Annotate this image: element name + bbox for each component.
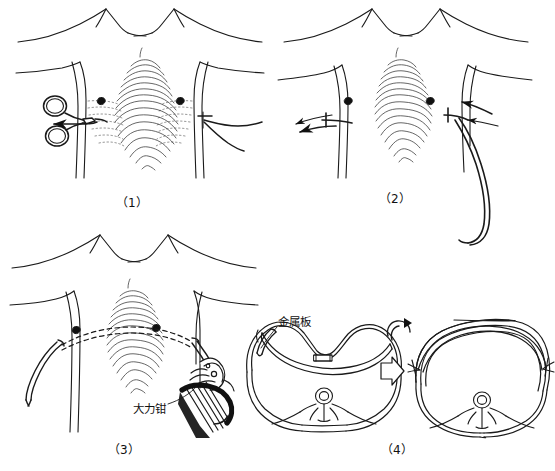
shoulder-neck-contours-p2: [284, 9, 528, 42]
rotation-arrow-p4: [387, 318, 412, 340]
panel-1-caption: （1）: [116, 193, 148, 210]
panel-3-caption: （3）: [108, 440, 140, 457]
torso-outline-p1: [16, 62, 264, 178]
shoulder-neck-contours-p3: [12, 235, 256, 268]
nipple-left-p1: [97, 97, 105, 104]
nipple-left-p2: [344, 97, 352, 104]
vice-grip-pliers-label: 大力钳: [133, 400, 166, 416]
metal-bar-after: [418, 326, 546, 372]
suture-threads-right-p1: [198, 112, 262, 151]
panel-4-caption: （4）: [381, 440, 413, 457]
bar-tip-marker-p2: [444, 108, 468, 122]
bar-left-end-p3: [26, 340, 64, 406]
cross-section-after: [408, 319, 554, 437]
figure-root: 金属板 大力钳 （1） （2） （3） （4）: [0, 0, 555, 471]
nipple-right-p2: [426, 97, 434, 104]
insertion-arrow-p2: [462, 102, 498, 126]
metal-plate-label: 金属板: [278, 313, 311, 329]
sternal-depression-hatching-p3: [107, 279, 164, 393]
medical-illustration-svg: [0, 0, 555, 471]
torso-outline-p2: [278, 65, 532, 178]
vice-grip-pliers-p3: [178, 358, 234, 438]
nipple-right-p1: [176, 97, 184, 104]
sternum-contact-plate: [314, 355, 332, 361]
bar-path-under-sternum-p3: [62, 327, 192, 350]
panel-1-drawing: [16, 9, 264, 178]
panel-4-drawing: [247, 318, 554, 438]
sternal-depression-hatching-p2: [375, 48, 432, 162]
nipple-left-p3: [72, 326, 80, 333]
vertebra-after: [430, 392, 534, 429]
panel-2-caption: （2）: [379, 189, 411, 206]
sternal-depression-hatching-p1: [115, 48, 178, 170]
nipple-right-p3: [152, 324, 160, 331]
metal-bar-free-end-left: [257, 329, 276, 356]
shoulder-neck-contours-p1: [18, 9, 262, 42]
panel-2-drawing: [278, 9, 532, 245]
metal-bar-before: [257, 330, 393, 374]
introducer-bar-p2: [455, 118, 490, 245]
vertebra-before: [272, 388, 376, 424]
left-direction-arrow-p2: [296, 115, 336, 132]
